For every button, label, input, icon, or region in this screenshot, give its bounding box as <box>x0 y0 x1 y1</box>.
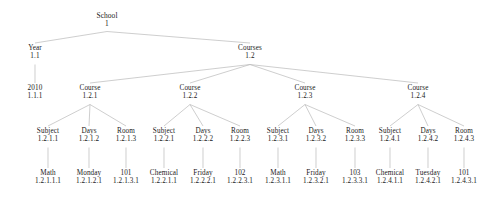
tree-edge <box>89 105 90 127</box>
tree-node-id: 1.2.3 <box>295 93 316 101</box>
tree-node-c4room[interactable]: Room1.2.4.3 <box>454 128 474 143</box>
tree-edge <box>48 105 90 127</box>
tree-node-id: 1.2.3.3.1 <box>342 178 368 186</box>
tree-edge <box>90 105 126 127</box>
tree-edge <box>390 105 418 127</box>
tree-edge <box>90 65 250 84</box>
tree-node-id: 1.2.3.2.1 <box>303 178 329 186</box>
tree-node-id: 1.2.3.1.1 <box>265 178 291 186</box>
tree-node-course1[interactable]: Course1.2.1 <box>80 85 101 100</box>
tree-node-c3daysv[interactable]: Friday1.2.3.2.1 <box>303 170 329 185</box>
tree-edge <box>190 65 250 84</box>
tree-node-id: 1.2.4.3 <box>454 136 474 144</box>
tree-node-c4days[interactable]: Days1.2.4.2 <box>418 128 438 143</box>
tree-node-id: 1.1 <box>28 53 42 61</box>
tree-edge <box>190 105 203 127</box>
tree-edge <box>35 32 107 44</box>
tree-edge <box>418 105 428 127</box>
tree-node-id: 1.2.4 <box>408 93 429 101</box>
tree-edge <box>305 105 316 127</box>
tree-node-id: 1.2.1.1.1 <box>35 178 61 186</box>
tree-edge <box>164 105 190 127</box>
tree-node-course4[interactable]: Course1.2.4 <box>408 85 429 100</box>
tree-node-c4roomv[interactable]: 1011.2.4.3.1 <box>451 170 477 185</box>
tree-node-id: 1.2.4.3.1 <box>451 178 477 186</box>
tree-node-id: 1.2.3.2 <box>306 136 326 144</box>
tree-node-c2subject[interactable]: Subject1.2.2.1 <box>153 128 175 143</box>
tree-edge <box>305 105 355 127</box>
tree-node-id: 1.2.1.1 <box>37 136 59 144</box>
tree-node-c2days[interactable]: Days1.2.2.2 <box>193 128 213 143</box>
tree-node-id: 1.2.2.1.1 <box>150 178 178 186</box>
tree-node-c3room[interactable]: Room1.2.3.3 <box>345 128 365 143</box>
tree-node-c2roomv[interactable]: 1021.2.2.3.1 <box>227 170 253 185</box>
tree-node-c1room[interactable]: Room1.2.1.3 <box>116 128 136 143</box>
tree-node-c3days[interactable]: Days1.2.3.2 <box>306 128 326 143</box>
tree-node-id: 1.2.1.2 <box>79 136 99 144</box>
tree-node-id: 1.2.1.2.1 <box>76 178 102 186</box>
tree-node-c2room[interactable]: Room1.2.2.3 <box>230 128 250 143</box>
tree-node-y2010[interactable]: 20101.1.1 <box>28 85 43 100</box>
tree-node-id: 1.2.2.2 <box>193 136 213 144</box>
tree-node-id: 1.2.4.1.1 <box>376 178 404 186</box>
tree-node-id: 1.2.2.3.1 <box>227 178 253 186</box>
tree-diagram: School1Year1.1Courses1.220101.1.1Course1… <box>0 0 486 197</box>
tree-node-id: 1.2.4.2.1 <box>415 178 441 186</box>
tree-edge <box>418 105 464 127</box>
tree-node-c3roomv[interactable]: 1031.2.3.3.1 <box>342 170 368 185</box>
tree-node-c1subject[interactable]: Subject1.2.1.1 <box>37 128 59 143</box>
tree-node-c3subjectv[interactable]: Math1.2.3.1.1 <box>265 170 291 185</box>
tree-node-c3subject[interactable]: Subject1.2.3.1 <box>267 128 289 143</box>
tree-node-c2daysv[interactable]: Friday1.2.2.2.1 <box>190 170 216 185</box>
tree-node-id: 1.2.2 <box>180 93 201 101</box>
tree-node-c1days[interactable]: Days1.2.1.2 <box>79 128 99 143</box>
tree-node-id: 1.2.3.3 <box>345 136 365 144</box>
tree-node-c4subject[interactable]: Subject1.2.4.1 <box>379 128 401 143</box>
tree-node-id: 1.2.3.1 <box>267 136 289 144</box>
tree-node-id: 1 <box>96 20 117 28</box>
tree-node-id: 1.2.2.2.1 <box>190 178 216 186</box>
tree-node-c4daysv[interactable]: Tuesday1.2.4.2.1 <box>415 170 441 185</box>
tree-node-c1roomv[interactable]: 1011.2.1.3.1 <box>113 170 139 185</box>
tree-node-id: 1.2.1 <box>80 93 101 101</box>
tree-node-year[interactable]: Year1.1 <box>28 45 42 60</box>
tree-node-course3[interactable]: Course1.2.3 <box>295 85 316 100</box>
tree-node-c2subjectv[interactable]: Chemical1.2.2.1.1 <box>150 170 178 185</box>
tree-edge <box>107 32 250 44</box>
tree-node-c1subjectv[interactable]: Math1.2.1.1.1 <box>35 170 61 185</box>
tree-node-id: 1.2.1.3 <box>116 136 136 144</box>
tree-node-id: 1.2.2.3 <box>230 136 250 144</box>
tree-edge <box>250 65 418 84</box>
tree-node-id: 1.2.2.1 <box>153 136 175 144</box>
tree-node-id: 1.2.4.2 <box>418 136 438 144</box>
tree-node-id: 1.2.1.3.1 <box>113 178 139 186</box>
tree-node-id: 1.2 <box>238 53 262 61</box>
tree-node-id: 1.1.1 <box>28 93 43 101</box>
tree-node-course2[interactable]: Course1.2.2 <box>180 85 201 100</box>
tree-node-courses[interactable]: Courses1.2 <box>238 45 262 60</box>
tree-node-id: 1.2.4.1 <box>379 136 401 144</box>
tree-node-c4subjectv[interactable]: Chemical1.2.4.1.1 <box>376 170 404 185</box>
tree-node-school[interactable]: School1 <box>96 12 117 28</box>
tree-edge <box>190 105 240 127</box>
tree-edge <box>278 105 305 127</box>
tree-node-c1daysv[interactable]: Monday1.2.1.2.1 <box>76 170 102 185</box>
